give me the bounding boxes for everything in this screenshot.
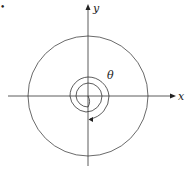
x-axis-arrow-icon bbox=[170, 94, 176, 99]
spiral bbox=[70, 77, 109, 119]
angle-theta-label: θ bbox=[107, 69, 114, 82]
x-axis-label: x bbox=[178, 90, 185, 103]
polar-diagram: • x y θ bbox=[0, 0, 185, 173]
angle-arrow-icon bbox=[89, 117, 94, 122]
y-axis-label: y bbox=[92, 2, 100, 15]
y-axis-arrow-icon bbox=[86, 4, 91, 10]
bullet-marker: • bbox=[0, 2, 5, 12]
